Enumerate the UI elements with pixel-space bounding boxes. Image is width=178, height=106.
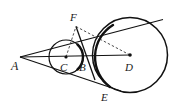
geometry-figure: A F C B D E <box>0 0 178 106</box>
point-label-A: A <box>10 59 19 73</box>
center-dot-C <box>64 55 67 58</box>
point-label-E: E <box>100 91 108 103</box>
center-line-A-to-D <box>20 55 130 57</box>
point-label-B: B <box>79 61 86 73</box>
point-label-C: C <box>60 61 68 73</box>
point-label-D: D <box>124 61 133 73</box>
point-label-F: F <box>69 11 77 23</box>
tangent-upper-A-to-large-circle <box>20 20 163 58</box>
geometry-canvas: A F C B D E <box>0 0 178 106</box>
tangent-lower-A-to-large-circle <box>20 57 121 91</box>
center-dot-D <box>128 53 132 57</box>
